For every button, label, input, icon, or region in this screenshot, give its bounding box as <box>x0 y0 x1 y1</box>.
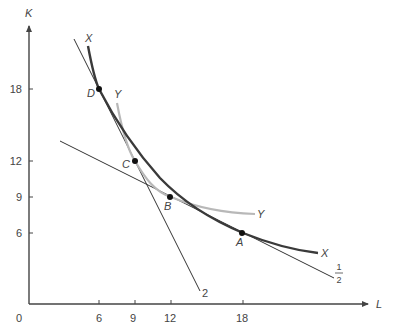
isoquant-x-label-start: X <box>84 32 93 44</box>
isoquant-diagram: K L 0 6 9 12 18 18 12 9 6 2 1 2 Y Y X X <box>0 0 395 328</box>
y-axis-label: K <box>25 7 33 19</box>
x-tick-12: 12 <box>164 312 176 324</box>
y-tick-6: 6 <box>16 227 22 239</box>
isoquant-x-label-end: X <box>320 247 329 259</box>
y-tick-12: 12 <box>10 155 22 167</box>
isocost-line-slope-2-label: 2 <box>202 287 208 299</box>
point-b-label: B <box>164 200 171 212</box>
y-tick-9: 9 <box>16 191 22 203</box>
svg-text:2: 2 <box>336 275 341 285</box>
point-d-label: D <box>87 87 95 99</box>
origin-label: 0 <box>16 312 22 324</box>
x-tick-9: 9 <box>130 312 136 324</box>
diagram-canvas: K L 0 6 9 12 18 18 12 9 6 2 1 2 Y Y X X <box>0 0 395 328</box>
x-tick-6: 6 <box>96 312 102 324</box>
point-a: A <box>235 230 245 248</box>
isoquant-y-label-start: Y <box>114 88 122 100</box>
point-c-label: C <box>122 158 130 170</box>
x-axis-label: L <box>376 298 382 310</box>
isocost-line-slope-half-label: 1 2 <box>335 262 343 285</box>
x-tick-18: 18 <box>236 312 248 324</box>
point-b: B <box>164 194 173 212</box>
isoquant-y-label-end: Y <box>257 208 265 220</box>
svg-text:1: 1 <box>336 262 341 272</box>
isoquant-x-curve <box>88 46 318 253</box>
y-tick-18: 18 <box>10 83 22 95</box>
isoquant-y-curve <box>117 103 255 214</box>
point-a-label: A <box>235 236 243 248</box>
